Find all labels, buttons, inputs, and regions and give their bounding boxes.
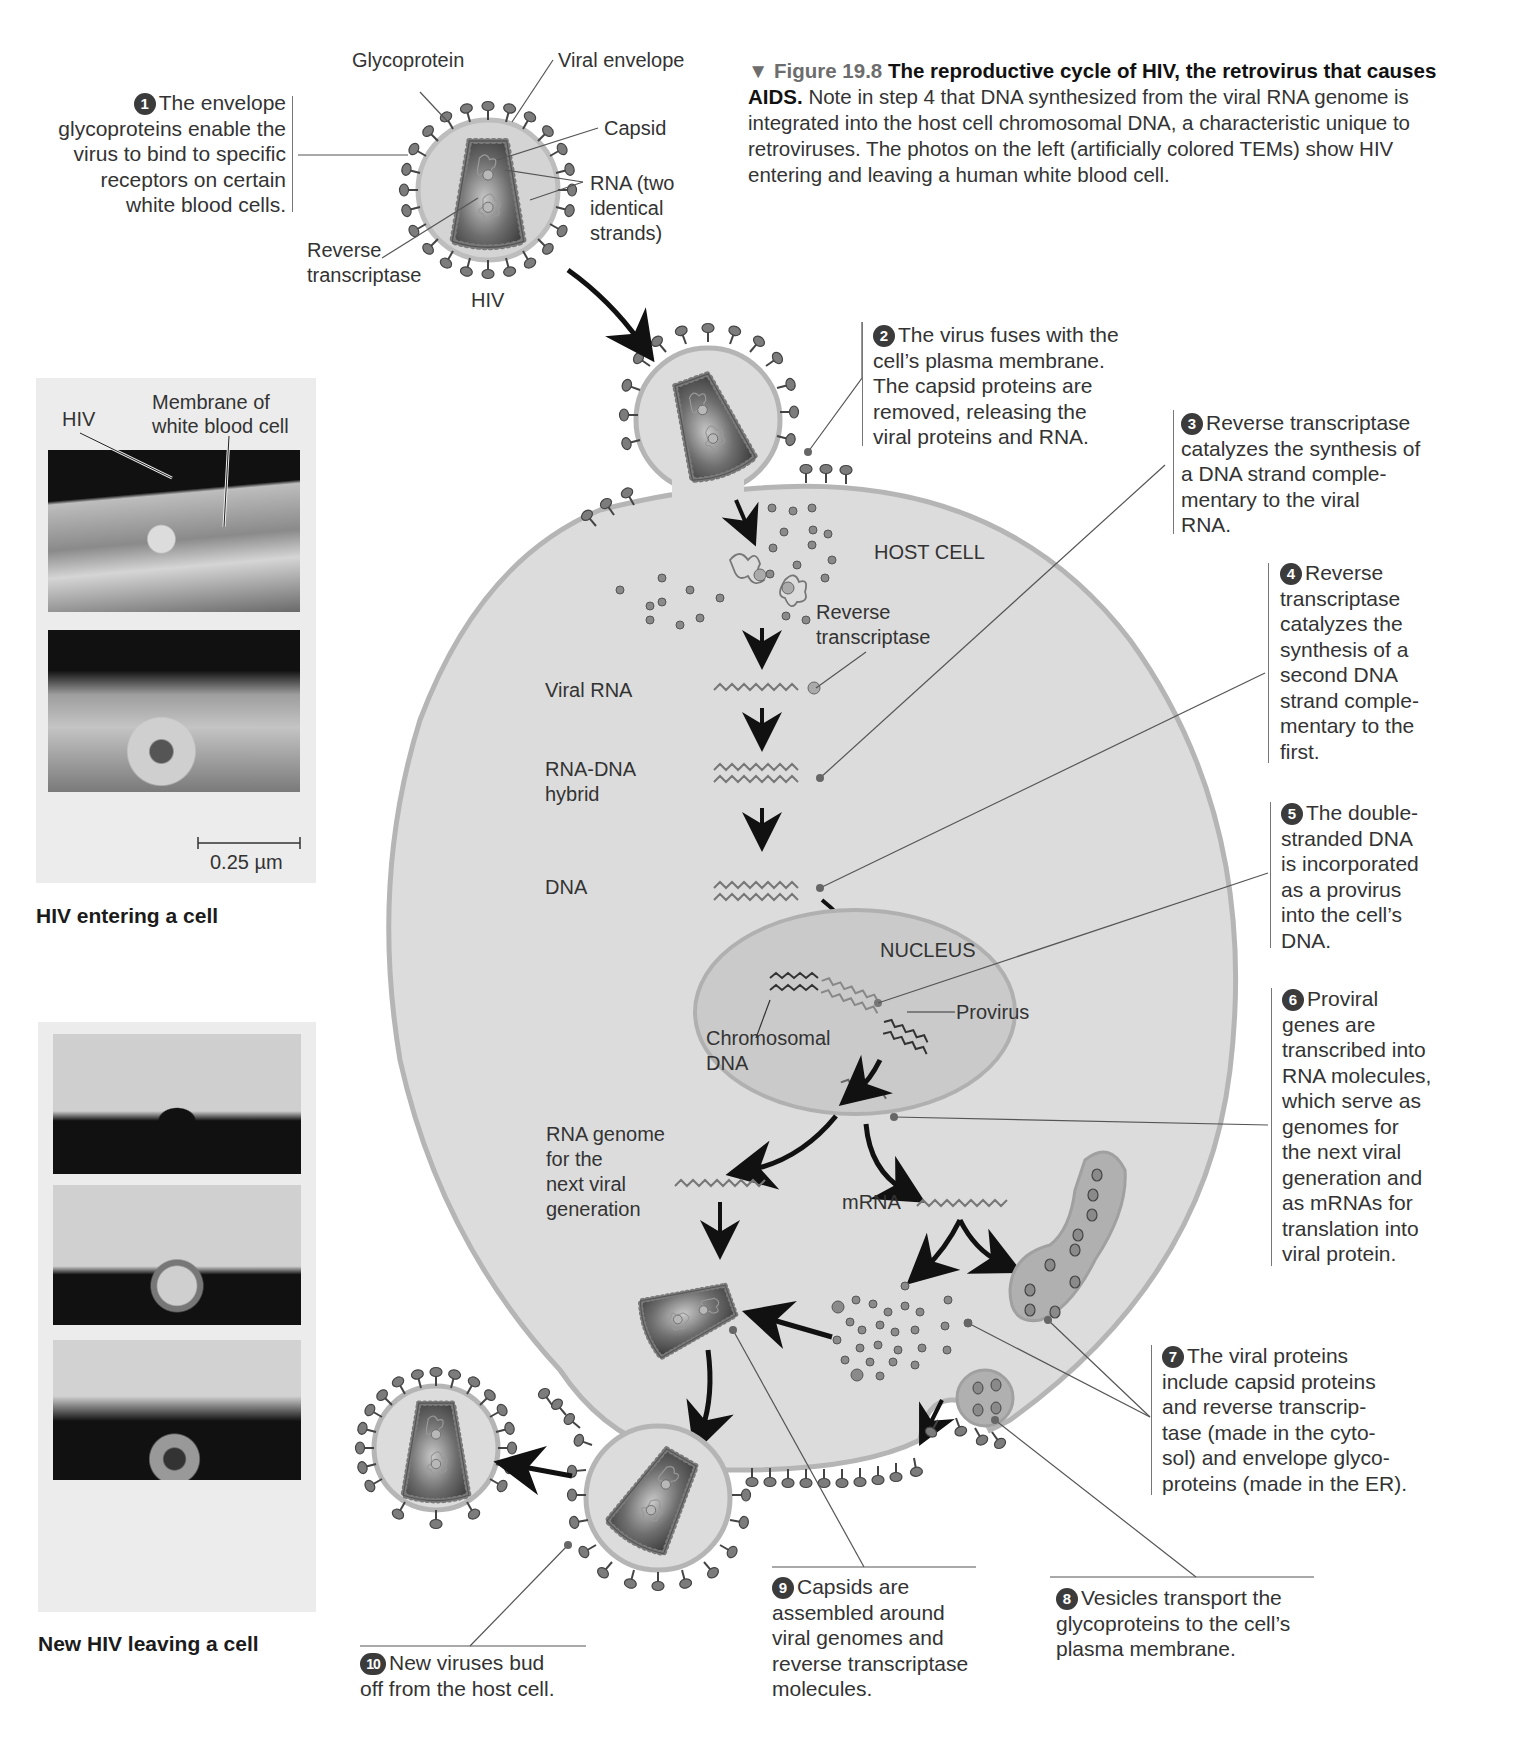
step-9-callout: 9Capsids are assembled around viral geno… — [772, 1574, 1032, 1702]
step-10-callout: 10New viruses bud off from the host cell… — [360, 1650, 620, 1701]
step-7-callout: 7The viral proteins include capsid prote… — [1162, 1343, 1502, 1496]
label-mrna: mRNA — [842, 1190, 901, 1214]
label-rna-genome: RNA genome for the next viral generation — [546, 1122, 665, 1222]
figure-marker: ▼ — [748, 59, 768, 82]
step-number-badge: 4 — [1280, 563, 1302, 585]
step-number-badge: 3 — [1181, 413, 1203, 435]
label-capsid: Capsid — [604, 116, 666, 140]
step-4-callout: 4Reverse transcriptase catalyzes the syn… — [1280, 560, 1500, 764]
label-chromosomal-dna: Chromosomal DNA — [706, 1026, 830, 1076]
tem-image-leaving-3 — [53, 1340, 301, 1480]
label-hiv: HIV — [471, 288, 504, 312]
label-reverse-transcriptase-cell: Reverse transcriptase — [816, 600, 931, 650]
figure-label: Figure 19.8 — [774, 59, 882, 82]
label-glycoprotein: Glycoprotein — [352, 48, 464, 72]
step-number-badge: 9 — [772, 1577, 794, 1599]
scale-bar-label: 0.25 µm — [210, 850, 283, 874]
label-dna: DNA — [545, 875, 587, 899]
label-nucleus: NUCLEUS — [880, 938, 976, 962]
label-rna: RNA (two identical strands) — [590, 171, 674, 246]
tem-image-leaving-2 — [53, 1185, 301, 1325]
figure-caption: ▼ Figure 19.8 The reproductive cycle of … — [748, 58, 1468, 188]
tem-image-leaving-1 — [53, 1034, 301, 1174]
figure-body: Note in step 4 that DNA synthesized from… — [748, 85, 1410, 186]
photo-leaders — [0, 0, 340, 900]
photo-title-entering: HIV entering a cell — [36, 904, 218, 928]
label-viral-envelope: Viral envelope — [558, 48, 684, 72]
label-rna-dna-hybrid: RNA-DNA hybrid — [545, 757, 636, 807]
transport-vesicle — [957, 1370, 1013, 1426]
label-host-cell: HOST CELL — [874, 540, 985, 564]
step-number-badge: 2 — [873, 325, 895, 347]
step-8-callout: 8Vesicles transport the glycoproteins to… — [1056, 1585, 1356, 1662]
step-number-badge: 7 — [1162, 1346, 1184, 1368]
step-2-callout: 2The virus fuses with the cell’s plasma … — [873, 322, 1173, 450]
photo-title-leaving: New HIV leaving a cell — [38, 1632, 259, 1656]
step-number-badge: 6 — [1282, 989, 1304, 1011]
step-number-badge: 10 — [360, 1653, 386, 1675]
step-3-callout: 3Reverse transcriptase catalyzes the syn… — [1181, 410, 1481, 538]
step-number-badge: 5 — [1281, 803, 1303, 825]
label-provirus: Provirus — [956, 1000, 1029, 1024]
step-number-badge: 8 — [1056, 1588, 1078, 1610]
step-6-callout: 6Proviral genes are transcribed into RNA… — [1282, 986, 1512, 1267]
label-viral-rna: Viral RNA — [545, 678, 632, 702]
step-5-callout: 5The double- stranded DNA is incorporate… — [1281, 800, 1501, 953]
